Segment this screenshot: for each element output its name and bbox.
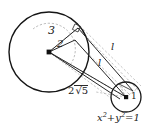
- equation-equals-one: =1: [125, 112, 140, 123]
- segment-tangent-l-outer: [78, 28, 133, 91]
- label-ell-inner: l: [98, 58, 101, 68]
- label-two: 2: [57, 39, 63, 49]
- small-circle-center: [124, 95, 128, 99]
- large-circle-center: [47, 50, 52, 55]
- segment-small-chord: [119, 84, 133, 91]
- label-radicand-five: 5: [82, 85, 88, 96]
- solid-geometry-group: [9, 12, 141, 112]
- label-ell-outer: l: [111, 42, 114, 52]
- label-one: 1: [131, 92, 137, 101]
- label-equation: x2+y2=1: [97, 112, 140, 123]
- geometry-diagram: 3 2 l l 2√5 1 x2+y2=1: [0, 0, 153, 133]
- dashed-tangent-outer: [78, 28, 138, 90]
- label-three: 3: [48, 25, 55, 36]
- equation-plus: +: [107, 112, 115, 123]
- label-two-root-five: 2√5: [68, 85, 88, 96]
